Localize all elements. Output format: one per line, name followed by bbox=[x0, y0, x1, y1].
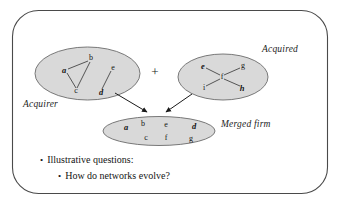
merge-arrows bbox=[115, 93, 192, 112]
bullet-dot-icon: • bbox=[40, 156, 43, 166]
plus-operator: + bbox=[151, 65, 158, 78]
bullet-text-2: How do networks evolve? bbox=[65, 170, 170, 181]
merged-node-d: d bbox=[192, 122, 196, 131]
arrow-acquired-to-merged bbox=[166, 94, 192, 112]
acquirer-node-c: c bbox=[74, 87, 78, 95]
bullet-item-illustrative-questions: •Illustrative questions: bbox=[40, 154, 134, 166]
merged-node-a: a bbox=[124, 123, 128, 132]
merged-node-f: f bbox=[165, 134, 168, 142]
acquired-label: Acquired bbox=[262, 44, 298, 54]
acquirer-label: Acquirer bbox=[23, 99, 58, 109]
slide-canvas: + Acquirer Acquired Merged firm a b c e … bbox=[0, 0, 341, 204]
merged-firm-label: Merged firm bbox=[221, 119, 271, 129]
slide-frame-border bbox=[13, 11, 328, 194]
acquired-node-f: f bbox=[221, 73, 224, 81]
bullet-item-how-do-networks-evolve: •How do networks evolve? bbox=[58, 170, 170, 182]
merged-node-g: g bbox=[189, 135, 193, 143]
acquired-node-g: g bbox=[241, 62, 245, 70]
merged-node-c: c bbox=[144, 134, 148, 142]
bullet-text-1: Illustrative questions: bbox=[47, 154, 133, 165]
acquirer-node-b: b bbox=[89, 54, 93, 62]
merged-firm-ellipse bbox=[103, 117, 215, 146]
acquirer-node-d: d bbox=[99, 88, 103, 97]
acquirer-node-a: a bbox=[62, 66, 66, 75]
acquirer-node-e: e bbox=[111, 64, 115, 72]
acquired-node-i: i bbox=[203, 84, 205, 92]
bullet-dot-icon: • bbox=[58, 172, 61, 182]
acquired-node-e: e bbox=[201, 62, 205, 71]
acquired-node-h: h bbox=[240, 84, 245, 93]
merged-node-b: b bbox=[141, 120, 145, 128]
arrow-acquirer-to-merged bbox=[115, 93, 147, 112]
acquirer-ellipse bbox=[35, 47, 140, 100]
merged-node-e: e bbox=[164, 121, 168, 129]
